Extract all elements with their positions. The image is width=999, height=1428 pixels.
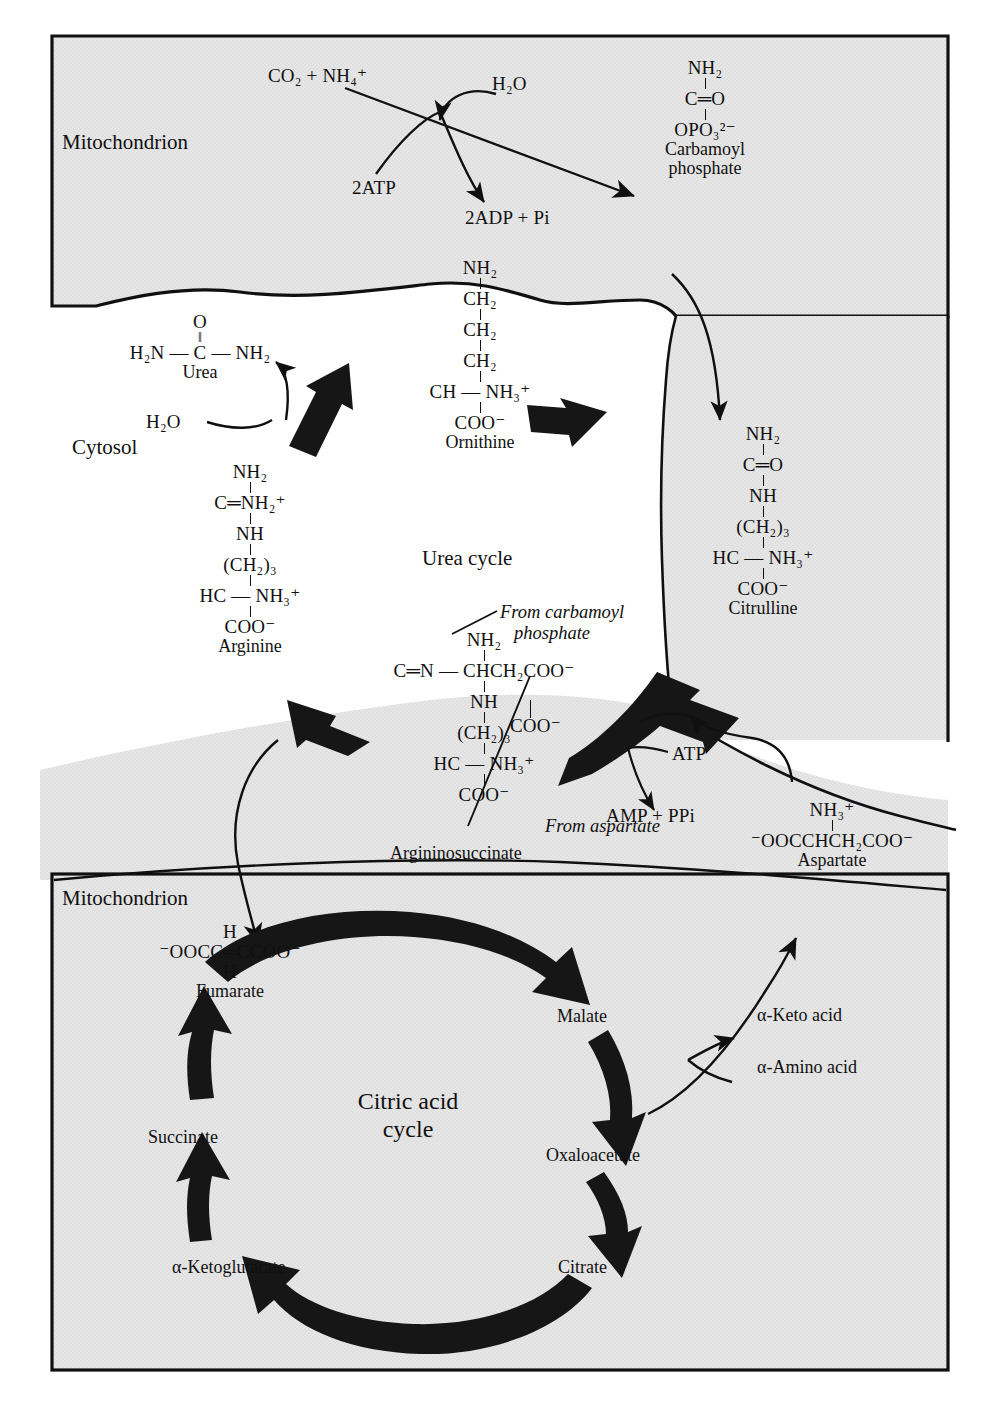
- fumarate-h-top: H: [223, 922, 237, 942]
- argsucc-branch-coo: COO⁻: [510, 716, 561, 736]
- fumarate-h-bottom: H: [223, 962, 237, 982]
- cac-intermediate-malate: Malate: [557, 1007, 607, 1026]
- argsucc-c-n-chain: C═N — CHCH₂COO⁻: [394, 661, 575, 681]
- citrulline-nh2: NH₂: [746, 424, 781, 444]
- argsucc-coo: COO⁻: [459, 785, 510, 805]
- urea-oxygen: O: [193, 312, 207, 332]
- reactant-atp-argsucc: ATP: [672, 744, 706, 764]
- argsucc-nh: NH: [470, 692, 498, 712]
- cac-intermediate-oxaloacetate: Oxaloacetate: [546, 1146, 640, 1165]
- citrulline-ch2-3: (CH₂)₃: [736, 517, 790, 537]
- molecule-aspartate: NH₃⁺ ⁻OOCCHCH₂COO⁻ Aspartate: [712, 800, 952, 870]
- ornithine-ch-nh3: CH — NH₃⁺: [430, 382, 531, 402]
- arginine-ch2-3: (CH₂)₃: [223, 555, 277, 575]
- reactant-2atp: 2ATP: [352, 178, 396, 198]
- urea-backbone: H₂N — C — NH₂: [130, 343, 270, 363]
- ornithine-coo: COO⁻: [455, 413, 506, 433]
- reactant-water-urea: H₂O: [146, 412, 181, 432]
- arginine-c-nh2: C═NH₂⁺: [214, 493, 285, 513]
- label-alpha-amino-acid: α-Amino acid: [757, 1058, 857, 1077]
- citrulline-coo: COO⁻: [738, 579, 789, 599]
- fumarate-backbone: ⁻OOCC═CCOO⁻: [159, 942, 300, 962]
- ornithine-ch2-3: CH₂: [463, 351, 497, 371]
- citrulline-hc-nh3: HC — NH₃⁺: [713, 548, 814, 568]
- carbamoyl-name-1: Carbamoyl: [665, 140, 745, 159]
- molecule-citrulline: NH₂ C═O NH (CH₂)₃ HC — NH₃⁺ COO⁻ Citrull…: [688, 424, 838, 618]
- molecule-carbamoyl-phosphate: NH₂ C═O OPO₃²⁻ Carbamoyl phosphate: [640, 58, 770, 178]
- product-2adp-pi: 2ADP + Pi: [465, 208, 550, 228]
- label-urea-cycle: Urea cycle: [422, 547, 512, 569]
- carbamoyl-name-2: phosphate: [669, 159, 742, 178]
- arginine-name: Arginine: [218, 637, 282, 656]
- figure-canvas: Mitochondrion Cytosol Mitochondrion CO₂ …: [0, 0, 999, 1428]
- argsucc-ch2-3: (CH₂)₃: [457, 723, 511, 743]
- cac-intermediate-citrate: Citrate: [558, 1258, 607, 1277]
- ornithine-ch2-1: CH₂: [463, 289, 497, 309]
- urea-name: Urea: [183, 363, 218, 382]
- carbamoyl-opo3: OPO₃²⁻: [674, 120, 736, 140]
- label-citric-acid-cycle: Citric acid cycle: [318, 1088, 498, 1143]
- label-mitochondrion-top: Mitochondrion: [62, 131, 188, 153]
- reactant-water-top: H₂O: [492, 74, 527, 94]
- arginine-nh: NH: [236, 524, 264, 544]
- carbamoyl-c-o: C═O: [685, 89, 725, 109]
- cac-intermediate-succinate: Succinate: [148, 1128, 218, 1147]
- citrulline-name: Citrulline: [729, 599, 798, 618]
- argininosuccinate-name: Argininosuccinate: [390, 844, 522, 863]
- aspartate-backbone: ⁻OOCCHCH₂COO⁻: [751, 831, 913, 851]
- molecule-arginine: NH₂ C═NH₂⁺ NH (CH₂)₃ HC — NH₃⁺ COO⁻ Argi…: [160, 462, 340, 656]
- citrulline-c-o: C═O: [743, 455, 783, 475]
- argsucc-hc-nh3: HC — NH₃⁺: [434, 754, 535, 774]
- arginine-hc-nh3: HC — NH₃⁺: [200, 586, 301, 606]
- argsucc-nh2: NH₂: [467, 630, 502, 650]
- label-alpha-keto-acid: α-Keto acid: [757, 1006, 842, 1025]
- ornithine-ch2-2: CH₂: [463, 320, 497, 340]
- molecule-urea: O ‖ H₂N — C — NH₂ Urea: [100, 312, 300, 382]
- label-mitochondrion-bottom: Mitochondrion: [62, 887, 188, 909]
- note-from-carbamoyl-phosphate: From carbamoyl phosphate: [500, 602, 624, 643]
- molecule-fumarate: H ⁻OOCC═CCOO⁻ H Fumarate: [125, 922, 335, 1001]
- citrulline-nh: NH: [749, 486, 777, 506]
- aspartate-nh3: NH₃⁺: [810, 800, 855, 820]
- carbamoyl-nh2: NH₂: [688, 58, 723, 78]
- substrates-co2-nh4: CO₂ + NH₄⁺: [268, 66, 367, 86]
- fumarate-name: Fumarate: [196, 982, 264, 1001]
- label-cytosol: Cytosol: [72, 436, 137, 458]
- molecule-ornithine: NH₂ CH₂ CH₂ CH₂ CH — NH₃⁺ COO⁻ Ornithine: [400, 258, 560, 452]
- product-amp-ppi: AMP + PPi: [606, 806, 695, 826]
- ornithine-name: Ornithine: [446, 433, 515, 452]
- aspartate-name: Aspartate: [798, 851, 867, 870]
- arginine-nh2: NH₂: [233, 462, 268, 482]
- ornithine-nh2: NH₂: [463, 258, 498, 278]
- cac-intermediate-alpha-ketoglutarate: α-Ketoglutarate: [172, 1258, 285, 1277]
- arginine-coo: COO⁻: [225, 617, 276, 637]
